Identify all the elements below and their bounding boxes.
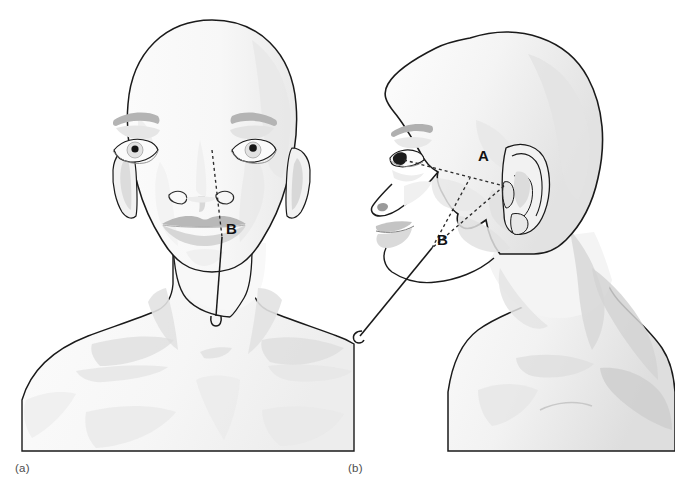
needle-shaft-lateral (360, 248, 432, 336)
panel-caption-a: (a) (15, 462, 30, 474)
anatomical-illustration: B (0, 0, 675, 491)
panel-b-lateral-figure: A B (353, 32, 675, 451)
nostril-lateral (377, 203, 388, 211)
marker-label-a-lateral: A (478, 147, 489, 164)
jawline-lateral (436, 258, 494, 282)
nose-shade-lateral (404, 181, 432, 206)
marker-label-b-lateral: B (437, 231, 448, 248)
panel-a-anterior-figure: B (22, 20, 354, 451)
figure-root: B (0, 0, 675, 491)
lower-lid-shade-lateral (392, 170, 424, 181)
eye-lateral (390, 150, 424, 167)
panel-caption-b: (b) (348, 462, 363, 474)
marker-label-b-anterior: B (226, 220, 237, 237)
